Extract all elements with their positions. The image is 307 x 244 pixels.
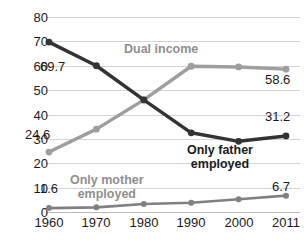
annotation-only-mother-employed: Only mother employed	[70, 173, 144, 201]
data-label-father-1960: 69.7	[40, 60, 65, 73]
data-point	[188, 200, 194, 206]
data-point	[141, 201, 147, 207]
data-point	[140, 96, 147, 103]
annotation-dual-income: Dual income	[124, 42, 198, 56]
series-layer	[0, 0, 307, 244]
annotation-only-father-line1: Only father	[187, 143, 253, 157]
data-point	[188, 63, 195, 70]
series-line	[49, 42, 286, 141]
annotation-only-mother-line1: Only mother	[70, 173, 144, 187]
data-point	[93, 204, 99, 210]
data-label-father-2011: 31.2	[265, 110, 290, 123]
data-point	[236, 196, 242, 202]
data-label-mother-1960: 1.6	[40, 182, 58, 195]
line-chart: 80 70 60 50 40 30 20 10 0 1960 1970 1980…	[0, 0, 307, 244]
data-label-dual-2011: 58.6	[265, 73, 290, 86]
data-point	[46, 149, 53, 156]
series-dual-income	[46, 63, 290, 156]
data-point	[235, 64, 242, 71]
data-point	[93, 62, 100, 69]
annotation-only-mother-line2: employed	[70, 187, 144, 201]
data-point	[188, 129, 195, 136]
data-point	[46, 205, 52, 211]
data-label-mother-2011: 6.7	[272, 180, 290, 193]
annotation-only-father-employed: Only father employed	[187, 143, 253, 171]
data-point	[93, 126, 100, 133]
annotation-only-father-line2: employed	[187, 157, 253, 171]
data-point	[283, 133, 290, 140]
data-label-dual-1960: 24.6	[25, 128, 50, 141]
data-point	[46, 39, 53, 46]
